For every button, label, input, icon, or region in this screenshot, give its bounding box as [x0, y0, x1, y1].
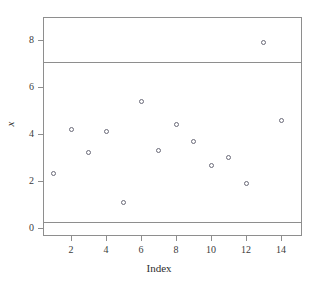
y-tick-label: 6 [12, 82, 34, 92]
y-tick-mark [38, 228, 43, 229]
x-tick-label: 4 [94, 244, 118, 255]
data-point [69, 127, 74, 132]
data-point [261, 40, 266, 45]
x-tick-mark [106, 236, 107, 241]
x-tick-mark [141, 236, 142, 241]
x-tick-label: 14 [269, 244, 293, 255]
data-point [174, 122, 179, 127]
y-tick-label: 0 [12, 223, 34, 233]
x-tick-label: 2 [59, 244, 83, 255]
data-point [156, 148, 161, 153]
data-point [104, 129, 109, 134]
y-tick-mark [38, 134, 43, 135]
x-axis-title: Index [0, 262, 318, 274]
y-tick-label: 8 [12, 35, 34, 45]
x-tick-label: 6 [129, 244, 153, 255]
data-point [209, 163, 214, 168]
data-point [191, 139, 196, 144]
x-tick-label: 10 [199, 244, 223, 255]
control-chart: x Index 024682468101214 [0, 0, 318, 292]
upper-control-limit [43, 62, 302, 63]
y-tick-mark [38, 181, 43, 182]
y-tick-mark [38, 87, 43, 88]
x-tick-label: 8 [164, 244, 188, 255]
plot-area [43, 17, 302, 236]
y-tick-label: 2 [12, 176, 34, 186]
x-tick-mark [71, 236, 72, 241]
x-tick-mark [176, 236, 177, 241]
x-tick-mark [246, 236, 247, 241]
x-tick-mark [281, 236, 282, 241]
x-tick-label: 12 [234, 244, 258, 255]
data-point [121, 200, 126, 205]
y-tick-label: 4 [12, 129, 34, 139]
data-point [139, 99, 144, 104]
x-tick-mark [211, 236, 212, 241]
data-point [51, 171, 56, 176]
data-point [279, 118, 284, 123]
data-point [226, 155, 231, 160]
data-point [244, 181, 249, 186]
data-point [86, 150, 91, 155]
y-tick-mark [38, 40, 43, 41]
lower-control-limit [43, 222, 302, 223]
